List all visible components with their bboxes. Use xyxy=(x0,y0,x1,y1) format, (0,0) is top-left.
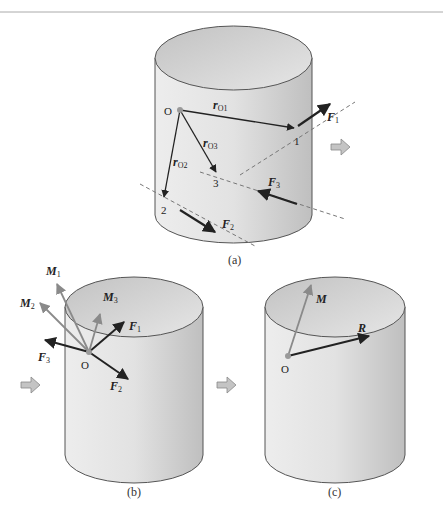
label-resultant-force: R xyxy=(357,321,366,335)
label-origin-a: O xyxy=(164,105,172,117)
point-origin-b xyxy=(86,349,92,355)
figure-canvas: O rO1 rO2 rO3 1 2 3 F1 F2 F3 (a) O M1 M2… xyxy=(0,0,443,513)
cylinder-c-top xyxy=(265,277,405,337)
transition-arrow-icon xyxy=(21,377,40,393)
label-origin-c: O xyxy=(281,363,289,375)
transition-arrow-icon xyxy=(217,377,236,393)
panel-a: O rO1 rO2 rO3 1 2 3 F1 F2 F3 (a) xyxy=(140,26,355,267)
label-f3-b: F3 xyxy=(37,350,50,365)
cylinder-a-top xyxy=(155,26,312,90)
label-f1-a: F1 xyxy=(326,110,339,125)
caption-b: (b) xyxy=(127,485,141,499)
point-origin-c xyxy=(285,353,291,359)
label-resultant-moment: M xyxy=(315,292,327,306)
label-m2: M2 xyxy=(19,296,35,311)
label-point-1: 1 xyxy=(294,135,300,147)
label-point-2: 2 xyxy=(161,204,167,216)
panel-b: O M1 M2 M3 F1 F2 F3 (b) xyxy=(19,264,203,499)
label-origin-b: O xyxy=(81,359,89,371)
caption-a: (a) xyxy=(228,253,241,267)
point-origin-a xyxy=(177,107,183,113)
label-point-3: 3 xyxy=(213,177,219,189)
transition-arrow-icon xyxy=(331,139,350,155)
label-m1: M1 xyxy=(45,264,61,279)
panel-c: O M R (c) xyxy=(265,277,405,499)
caption-c: (c) xyxy=(328,485,341,499)
